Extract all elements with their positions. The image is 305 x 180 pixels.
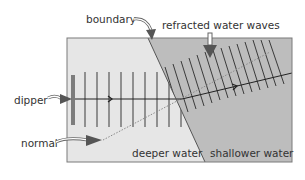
label-boundary: boundary: [86, 13, 136, 25]
refraction-diagram: boundary refracted water waves dipper no…: [0, 0, 305, 180]
label-deeper-water: deeper water: [132, 147, 203, 159]
label-shallower-water: shallower water: [210, 147, 294, 159]
dipper: [71, 75, 75, 125]
label-normal: normal: [21, 137, 58, 149]
label-dipper: dipper: [14, 94, 48, 106]
label-refracted-waves: refracted water waves: [162, 19, 280, 31]
boundary-curved-arrow-icon: [134, 19, 156, 40]
